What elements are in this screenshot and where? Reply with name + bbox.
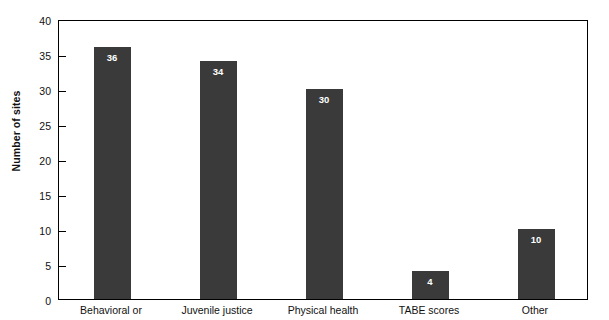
bars-layer: 363430410 (59, 21, 587, 299)
bar-value-label: 10 (518, 234, 555, 245)
y-tick-label: 30 (17, 84, 51, 98)
x-axis-label-4: TABE scores (376, 303, 482, 317)
bar-rect[interactable]: 34 (200, 61, 237, 299)
y-tick-label: 10 (17, 224, 51, 238)
bar-value-label: 4 (412, 276, 449, 287)
x-axis-label-5: Other (482, 303, 588, 317)
y-tick-label: 15 (17, 189, 51, 203)
bar-5[interactable]: 10 (518, 21, 555, 299)
y-tick-label: 5 (17, 259, 51, 273)
bar-chart-figure: Number of sites 0510152025303540 3634304… (0, 0, 609, 320)
bar-value-label: 34 (200, 66, 237, 77)
x-axis-label-3: Physical health (270, 303, 376, 317)
x-axis-label-2: Juvenile justice (164, 303, 270, 317)
bar-value-label: 36 (94, 52, 131, 63)
x-axis-labels: Behavioral orJuvenile justicePhysical he… (58, 303, 588, 320)
bar-1[interactable]: 36 (94, 21, 131, 299)
bar-rect[interactable]: 10 (518, 229, 555, 299)
bar-rect[interactable]: 4 (412, 271, 449, 299)
bar-value-label: 30 (306, 94, 343, 105)
y-tick-label: 0 (17, 294, 51, 308)
bar-2[interactable]: 34 (200, 21, 237, 299)
x-axis-label-1: Behavioral or (58, 303, 164, 317)
y-tick-label: 35 (17, 49, 51, 63)
y-tick-label: 40 (17, 14, 51, 28)
y-tick-label: 20 (17, 154, 51, 168)
bar-rect[interactable]: 36 (94, 47, 131, 299)
bar-rect[interactable]: 30 (306, 89, 343, 299)
y-tick-label: 25 (17, 119, 51, 133)
bar-3[interactable]: 30 (306, 21, 343, 299)
bar-4[interactable]: 4 (412, 21, 449, 299)
plot-area: 0510152025303540 363430410 (58, 20, 588, 300)
